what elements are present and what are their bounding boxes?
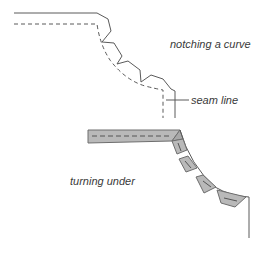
- turned-tab-3: [196, 175, 216, 193]
- curved-edge: [180, 130, 249, 238]
- turned-tab-4: [217, 190, 246, 207]
- seam-line-dashed: [14, 24, 163, 118]
- notching-figure: notching a curve seam line: [14, 13, 251, 118]
- seam-line-label: seam line: [191, 94, 238, 106]
- notched-fabric-edge: [14, 13, 175, 118]
- notching-caption: notching a curve: [170, 38, 251, 50]
- sewing-diagram: notching a curve seam line turning under: [0, 0, 273, 257]
- turning-under-figure: turning under: [70, 130, 249, 238]
- turning-under-caption: turning under: [70, 175, 136, 187]
